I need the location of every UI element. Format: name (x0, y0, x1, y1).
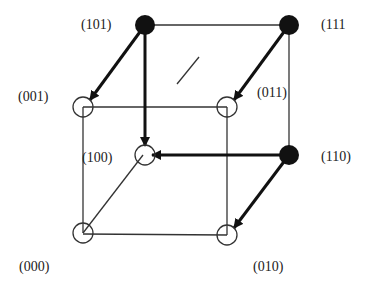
node-101-filled (135, 15, 155, 35)
label-100: (100) (82, 151, 112, 165)
label-111: (111 (321, 18, 346, 32)
node-110-filled (279, 145, 299, 165)
edge-000-010 (83, 234, 227, 235)
label-001: (001) (18, 90, 48, 104)
cube-edges (83, 25, 289, 235)
label-110: (110) (321, 150, 351, 164)
label-011: (011) (257, 86, 287, 100)
cube-graphic (0, 0, 378, 296)
transition-arrows (90, 25, 289, 228)
label-101: (101) (81, 18, 111, 32)
cube-diagram: (101) (111 (001) (011) (100) (110) (000)… (0, 0, 378, 296)
nodes (73, 15, 299, 245)
arrow-110-to-010 (234, 155, 289, 228)
label-010: (010) (253, 260, 283, 274)
hidden-edge-mark (177, 57, 199, 84)
label-000: (000) (19, 260, 49, 274)
edge-000-100 (83, 155, 143, 233)
arrow-101-to-001 (90, 25, 145, 100)
node-111-filled (279, 15, 299, 35)
